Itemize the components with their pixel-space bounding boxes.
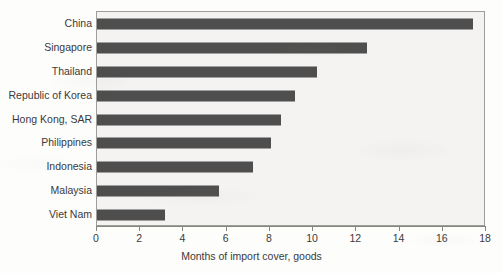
bar bbox=[97, 42, 367, 53]
x-tick-label: 12 bbox=[349, 232, 361, 244]
plot-area bbox=[96, 11, 485, 226]
x-tick-label: 18 bbox=[479, 232, 491, 244]
x-tick-label: 6 bbox=[223, 232, 229, 244]
x-tick-mark bbox=[355, 226, 356, 231]
bar bbox=[97, 90, 295, 101]
x-tick-mark bbox=[399, 226, 400, 231]
x-tick-mark bbox=[485, 226, 486, 231]
bar bbox=[97, 162, 253, 173]
x-tick-mark bbox=[312, 226, 313, 231]
chart-title-cropped bbox=[96, 0, 386, 4]
bar bbox=[97, 138, 271, 149]
x-tick-mark bbox=[226, 226, 227, 231]
category-label: Viet Nam bbox=[0, 209, 92, 220]
category-label: Hong Kong, SAR bbox=[0, 113, 92, 124]
x-tick-label: 4 bbox=[180, 232, 186, 244]
category-label: Singapore bbox=[0, 41, 92, 52]
x-tick-mark bbox=[269, 226, 270, 231]
bar bbox=[97, 66, 317, 77]
category-label: Malaysia bbox=[0, 185, 92, 196]
bar bbox=[97, 210, 165, 221]
category-label: Indonesia bbox=[0, 161, 92, 172]
category-label: Republic of Korea bbox=[0, 89, 92, 100]
x-axis-line bbox=[96, 226, 485, 227]
x-tick-label: 16 bbox=[436, 232, 448, 244]
x-tick-mark bbox=[442, 226, 443, 231]
bar bbox=[97, 114, 281, 125]
x-tick-mark bbox=[96, 226, 97, 231]
bar bbox=[97, 18, 473, 29]
x-axis-title: Months of import cover, goods bbox=[0, 250, 503, 262]
category-label: Philippines bbox=[0, 137, 92, 148]
x-tick-label: 0 bbox=[93, 232, 99, 244]
bar-chart-figure: ChinaSingaporeThailandRepublic of KoreaH… bbox=[0, 0, 503, 273]
x-tick-label: 2 bbox=[136, 232, 142, 244]
category-axis: ChinaSingaporeThailandRepublic of KoreaH… bbox=[0, 11, 92, 226]
bar bbox=[97, 186, 219, 197]
x-tick-label: 8 bbox=[266, 232, 272, 244]
x-tick-mark bbox=[139, 226, 140, 231]
category-label: China bbox=[0, 17, 92, 28]
category-label: Thailand bbox=[0, 65, 92, 76]
x-tick-label: 10 bbox=[306, 232, 318, 244]
x-tick-mark bbox=[182, 226, 183, 231]
x-tick-label: 14 bbox=[393, 232, 405, 244]
